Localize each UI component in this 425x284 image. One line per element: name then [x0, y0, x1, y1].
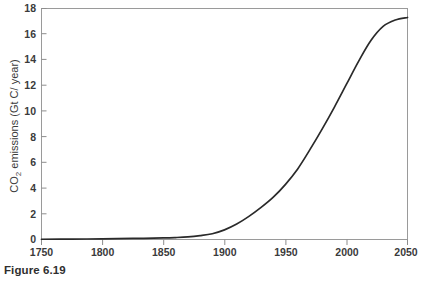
- x-tick-label-1750: 1750: [30, 246, 54, 258]
- figure-container: 0 2 4 6 8 10 12 14 16 18 1750 1800 1850 …: [0, 0, 425, 284]
- svg-text:CO2 emissions (Gt C/ year): CO2 emissions (Gt C/ year): [8, 59, 23, 192]
- x-tick-label-2000: 2000: [335, 246, 359, 258]
- y-axis-tick-labels: 0 2 4 6 8 10 12 14 16 18: [24, 2, 36, 245]
- plot-frame: [41, 8, 408, 240]
- x-tick-label-1950: 1950: [274, 246, 298, 258]
- y-axis-title-rest: emissions (Gt C/ year): [8, 59, 20, 171]
- y-axis-title: CO2 emissions (Gt C/ year): [8, 59, 23, 192]
- y-tick-label-2: 2: [30, 208, 36, 220]
- co2-emissions-curve: [42, 17, 408, 239]
- x-axis-ticks: [42, 240, 408, 246]
- y-tick-label-4: 4: [30, 182, 36, 194]
- x-tick-label-2050: 2050: [394, 246, 418, 258]
- y-axis-title-main: CO: [8, 176, 20, 193]
- x-tick-label-1850: 1850: [152, 246, 176, 258]
- y-tick-label-0: 0: [30, 233, 36, 245]
- y-axis-ticks: [42, 9, 47, 240]
- x-axis-tick-labels: 1750 1800 1850 1900 1950 2000 2050: [30, 246, 418, 258]
- x-tick-label-1800: 1800: [91, 246, 115, 258]
- y-tick-label-10: 10: [24, 105, 36, 117]
- y-tick-label-16: 16: [24, 28, 36, 40]
- figure-caption: Figure 6.19: [4, 264, 66, 276]
- co2-emissions-line-chart: 0 2 4 6 8 10 12 14 16 18 1750 1800 1850 …: [0, 0, 425, 284]
- y-tick-label-12: 12: [24, 79, 36, 91]
- y-tick-label-6: 6: [30, 156, 36, 168]
- y-tick-label-8: 8: [30, 131, 36, 143]
- x-tick-label-1900: 1900: [213, 246, 237, 258]
- y-tick-label-14: 14: [24, 53, 36, 65]
- y-tick-label-18: 18: [24, 2, 36, 14]
